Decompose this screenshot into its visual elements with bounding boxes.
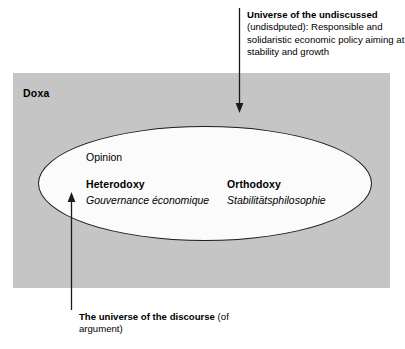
top-annotation-text: Universe of the undiscussed (undisdputed… (247, 9, 405, 58)
top-annotation-lead: Universe of the undiscussed (247, 9, 378, 20)
heterodoxy-column: Heterodoxy Gouvernance économique (86, 177, 209, 207)
heterodoxy-title: Heterodoxy (86, 177, 209, 191)
opinion-label: Opinion (86, 152, 122, 164)
heterodoxy-subtitle: Gouvernance économique (86, 193, 209, 207)
figure-canvas: Doxa Opinion Heterodoxy Gouvernance écon… (0, 0, 405, 349)
bottom-annotation-arrow-icon (62, 188, 82, 310)
bottom-annotation-lead: The universe of the discourse (79, 311, 215, 322)
top-annotation-arrow-icon (230, 8, 250, 116)
bottom-annotation-text: The universe of the discourse (of argume… (79, 311, 259, 336)
orthodoxy-column: Orthodoxy Stabilitätsphilosophie (227, 177, 326, 207)
doxa-label: Doxa (23, 88, 49, 99)
top-annotation-rest: (undisdputed): Responsible and solidaris… (247, 21, 404, 57)
orthodoxy-title: Orthodoxy (227, 177, 326, 191)
orthodoxy-subtitle: Stabilitätsphilosophie (227, 193, 326, 207)
